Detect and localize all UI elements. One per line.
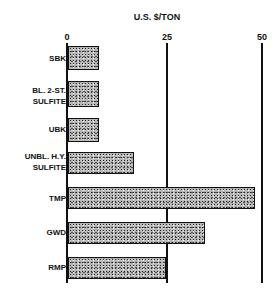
x-tick-50: 50 bbox=[257, 32, 267, 42]
category-label-rmp: RMP bbox=[48, 262, 66, 273]
bar-tmp bbox=[68, 187, 255, 209]
category-label-gwd: GWD bbox=[46, 227, 66, 238]
bar-unbl-h-y-sulfite bbox=[68, 152, 134, 174]
x-tick-25: 25 bbox=[162, 32, 172, 42]
bar-rmp bbox=[68, 257, 166, 279]
gridline-50 bbox=[261, 43, 263, 283]
bar-bl-2-st-sulfite bbox=[68, 81, 99, 107]
gridline-25 bbox=[166, 43, 168, 283]
category-label-unbl-hy-sulfite: UNBL. H.Y.SULFITE bbox=[25, 151, 66, 173]
x-tick-0: 0 bbox=[64, 32, 69, 42]
bar-sbk bbox=[68, 46, 99, 70]
category-label-ubk: UBK bbox=[49, 124, 66, 135]
category-label-tmp: TMP bbox=[49, 193, 66, 204]
chart-title: U.S. $/TON bbox=[0, 12, 278, 22]
bar-gwd bbox=[68, 222, 205, 244]
bar-ubk bbox=[68, 118, 99, 142]
category-label-sbk: SBK bbox=[49, 53, 66, 64]
category-label-bl-2st-sulfite: BL. 2-ST.SULFITE bbox=[32, 85, 66, 107]
